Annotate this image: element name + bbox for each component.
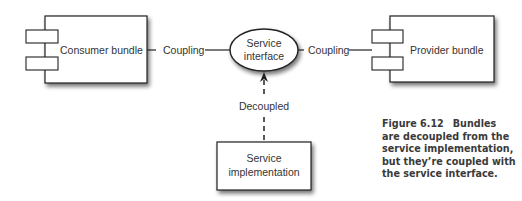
provider-bundle-node: Provider bundle [372, 16, 494, 82]
service-interface-label-line1: Service [246, 37, 281, 49]
figure-number: Figure 6.12 [382, 118, 444, 129]
left-coupling-label: Coupling [163, 44, 205, 56]
decoupled-label: Decoupled [239, 100, 289, 112]
service-interface-label-line2: interface [244, 50, 284, 62]
decoupled-edge: Decoupled [239, 72, 289, 142]
right-coupling-edge: Coupling [298, 44, 372, 56]
consumer-bundle-node: Consumer bundle [26, 16, 147, 83]
connector-tab-top [26, 30, 58, 43]
service-implementation-node: Service implementation [217, 142, 311, 190]
figure-caption: Figure 6.12Bundles are decoupled from th… [382, 118, 517, 181]
connector-tab-bottom [26, 57, 58, 70]
connector-tab-bottom [372, 57, 403, 70]
service-interface-node: Service interface [230, 29, 298, 71]
service-implementation-label-line1: Service [246, 152, 281, 164]
provider-bundle-label: Provider bundle [410, 44, 484, 56]
consumer-bundle-label: Consumer bundle [60, 44, 143, 56]
connector-tab-top [372, 30, 403, 43]
service-implementation-label-line2: implementation [228, 166, 299, 178]
right-coupling-label: Coupling [308, 44, 350, 56]
left-coupling-edge: Coupling [147, 44, 231, 56]
